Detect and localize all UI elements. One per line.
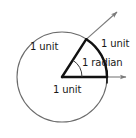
label-radius-unit-left: 1 unit [30,41,58,52]
radian-diagram: 1 unit 1 unit 1 radian 1 unit [0,0,136,138]
radian-diagram-svg [0,0,136,138]
diagonal-ray [85,12,117,40]
label-arc-unit-right: 1 unit [101,38,129,49]
label-angle-radian: 1 radian [82,57,123,68]
angle-arc [73,60,82,77]
label-radius-unit-bottom: 1 unit [53,84,81,95]
